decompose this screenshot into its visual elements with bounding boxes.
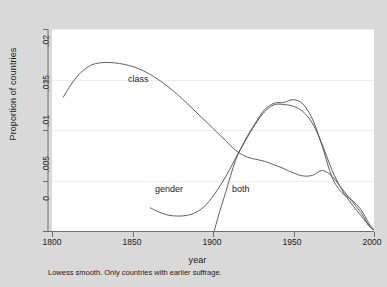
chart-figure-inner: Proportion of countries .02 .015 .01 .00…	[4, 4, 383, 283]
y-tick-label-3: .005	[41, 156, 51, 180]
x-tick-label-1950: 1950	[275, 237, 309, 247]
x-tick-label-1900: 1900	[195, 237, 229, 247]
x-axis-title: year	[4, 255, 387, 265]
plot-canvas	[52, 29, 374, 231]
series-line-both	[211, 100, 374, 231]
curve-label-class: class	[128, 74, 149, 84]
y-tick-label-4: 0	[41, 196, 51, 220]
y-tick-label-1: .015	[41, 75, 51, 99]
y-tick-label-2: .01	[41, 115, 51, 139]
chart-caption: Lowess smooth. Only countries with earli…	[48, 268, 222, 277]
x-tick-label-1850: 1850	[115, 237, 149, 247]
chart-figure: Proportion of countries .02 .015 .01 .00…	[0, 0, 387, 287]
curve-label-both: both	[232, 184, 250, 194]
x-tick-label-2000: 2000	[355, 237, 387, 247]
series-lines	[63, 62, 374, 231]
curve-label-gender: gender	[155, 184, 183, 194]
y-axis-title: Proportion of countries	[8, 24, 18, 164]
series-line-class	[63, 62, 374, 230]
plot-area: class gender both	[52, 29, 374, 231]
y-tick-label-0: .02	[41, 35, 51, 59]
x-tick-label-1800: 1800	[35, 237, 69, 247]
series-line-gender	[150, 104, 374, 230]
